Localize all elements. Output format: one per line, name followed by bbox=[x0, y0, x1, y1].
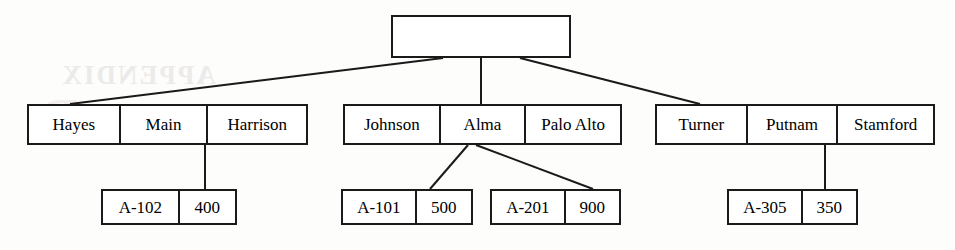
account-number-cell: A-305 bbox=[729, 191, 801, 223]
root-index-node[interactable] bbox=[391, 15, 571, 58]
root-node-cell bbox=[393, 17, 569, 56]
diagram-canvas: APPENDIX D Hayes Main Harrison Johnson A… bbox=[0, 0, 955, 250]
watermark-appendix-text: APPENDIX bbox=[26, 52, 216, 98]
account-balance-cell: 500 bbox=[415, 191, 471, 223]
branch-name-cell: Hayes bbox=[29, 106, 119, 143]
account-number-cell: A-102 bbox=[103, 191, 178, 223]
edge-alma-to-a201 bbox=[476, 145, 593, 189]
account-number-cell: A-101 bbox=[343, 191, 415, 223]
account-balance-cell: 400 bbox=[178, 191, 235, 223]
branch-city-cell: Stamford bbox=[836, 106, 933, 143]
branch-city-cell: Harrison bbox=[206, 106, 306, 143]
account-balance-cell: 900 bbox=[564, 191, 619, 223]
account-record-a101[interactable]: A-101 500 bbox=[341, 189, 473, 225]
account-record-a102[interactable]: A-102 400 bbox=[101, 189, 237, 225]
edge-root-to-hayes bbox=[70, 58, 443, 104]
account-balance-cell: 350 bbox=[801, 191, 856, 223]
branch-city-cell: Palo Alto bbox=[524, 106, 620, 143]
branch-street-cell: Main bbox=[119, 106, 207, 143]
branch-record-turner[interactable]: Turner Putnam Stamford bbox=[655, 104, 935, 145]
account-record-a201[interactable]: A-201 900 bbox=[490, 189, 621, 225]
branch-name-cell: Turner bbox=[657, 106, 746, 143]
branch-street-cell: Alma bbox=[439, 106, 525, 143]
account-record-a305[interactable]: A-305 350 bbox=[727, 189, 858, 225]
account-number-cell: A-201 bbox=[492, 191, 564, 223]
edge-alma-to-a101 bbox=[430, 145, 468, 189]
branch-street-cell: Putnam bbox=[746, 106, 837, 143]
branch-record-johnson[interactable]: Johnson Alma Palo Alto bbox=[343, 104, 622, 145]
branch-name-cell: Johnson bbox=[345, 106, 439, 143]
branch-record-hayes[interactable]: Hayes Main Harrison bbox=[27, 104, 308, 145]
edge-root-to-turner bbox=[520, 58, 700, 104]
